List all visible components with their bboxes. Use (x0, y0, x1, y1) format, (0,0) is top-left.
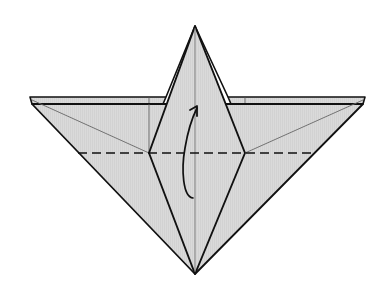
origami-figure (0, 0, 388, 296)
origami-diagram: Origami diagram: valley fold the lower f… (0, 0, 388, 296)
